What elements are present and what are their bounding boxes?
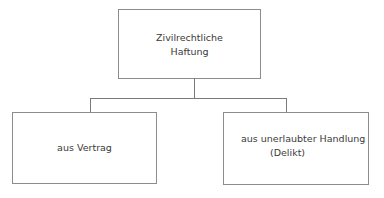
connector-right-drop: [286, 98, 287, 112]
connector-horizontal: [90, 98, 287, 99]
child-node-label-vertrag: aus Vertrag: [12, 141, 157, 155]
child-node-label-delikt-line1: aus unerlaubter Handlung: [241, 132, 365, 146]
root-node-label-line2: Haftung: [118, 45, 261, 59]
child-node-label-delikt-line2: (Delikt): [270, 146, 305, 160]
root-node-label-line1: Zivilrechtliche: [118, 31, 261, 45]
connector-left-drop: [90, 98, 91, 112]
connector-root-down: [194, 78, 195, 98]
